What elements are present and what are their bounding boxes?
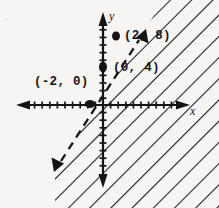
x-axis-left-arrow [16,101,30,110]
x-axis-label: x [190,105,195,117]
y-axis-label: y [109,10,114,22]
y-axis-top-arrow [99,12,108,26]
point-marker-0-4 [99,62,107,73]
coordinate-plane-svg [0,0,219,208]
point-label-0-4: (0, 4) [113,62,160,75]
point-marker-neg2-0 [85,100,95,108]
point-label-neg2-0: (-2, 0) [34,76,89,89]
graph-figure: (2, 8) (0, 4) (-2, 0) y x [0,0,219,208]
point-marker-2-8 [112,31,120,40]
point-label-2-8: (2, 8) [124,30,171,43]
